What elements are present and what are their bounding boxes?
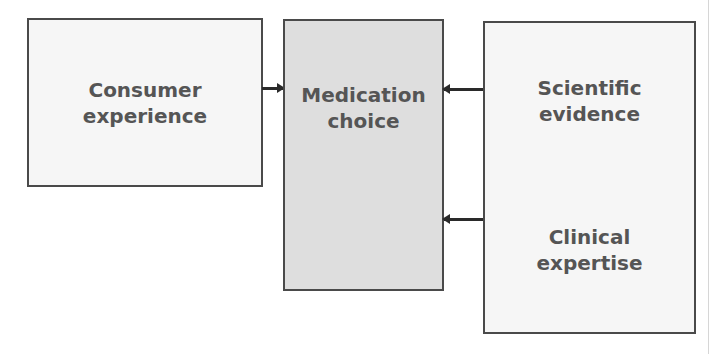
arrow-clinical-to-medication xyxy=(444,218,484,221)
medication-choice-box: Medication choice xyxy=(283,19,444,291)
medication-choice-label: Medication choice xyxy=(301,82,425,134)
clinical-expertise-label: Clinical expertise xyxy=(536,224,642,276)
arrow-consumer-to-medication xyxy=(262,87,283,90)
clinical-expertise-box: Clinical expertise xyxy=(483,166,696,334)
arrow-scientific-to-medication xyxy=(444,88,484,91)
consumer-experience-label: Consumer experience xyxy=(83,77,207,129)
scientific-evidence-label: Scientific evidence xyxy=(537,75,641,127)
consumer-experience-box: Consumer experience xyxy=(27,18,263,187)
arrowhead-icon xyxy=(442,84,450,94)
arrowhead-icon xyxy=(442,214,450,224)
scientific-evidence-box: Scientific evidence xyxy=(483,21,696,168)
page-edge-divider xyxy=(708,0,709,354)
